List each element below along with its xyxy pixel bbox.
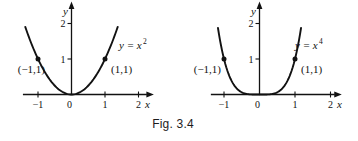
x-tick-label: 1 [293, 99, 298, 110]
x-tick-label: 1 [103, 99, 108, 110]
x-tick-label: −1 [33, 99, 44, 110]
equation-exponent: 4 [319, 37, 323, 46]
x-tick-label: 2 [136, 99, 141, 110]
y-axis-label: y [250, 5, 256, 17]
equation-label: y = x [118, 39, 142, 51]
y-axis-arrow-icon [257, 2, 263, 10]
y-tick-label: 2 [249, 18, 254, 29]
figure-caption: Fig. 3.4 [0, 117, 346, 131]
x-axis-label: x [144, 98, 150, 110]
x-axis-label: x [336, 98, 342, 110]
graph-y-equals-x-fourth: −1 0 1 2 1 2 x y (−1,1) (1,1) y = x 4 [179, 0, 358, 115]
figure-container: −1 0 1 2 1 2 x y (−1,1) (1,1) y = x 2 −1… [0, 0, 358, 141]
tick-marks [224, 24, 331, 98]
x-tick-label: 0 [255, 99, 260, 110]
point-dot [103, 57, 108, 62]
x-tick-label: −1 [219, 99, 230, 110]
x-axis-arrow-icon [334, 92, 342, 98]
point-dot [36, 57, 41, 62]
y-axis-arrow-icon [69, 2, 75, 10]
point-dot [293, 57, 298, 62]
point-label: (−1,1) [18, 63, 46, 76]
point-dot [222, 57, 227, 62]
y-tick-label: 1 [61, 54, 66, 65]
point-label: (1,1) [301, 63, 322, 76]
y-tick-label: 2 [61, 18, 66, 29]
x-tick-label: 2 [328, 99, 333, 110]
point-label: (1,1) [111, 63, 132, 76]
point-label: (−1,1) [194, 63, 222, 76]
x-tick-label: 0 [67, 99, 72, 110]
x-axis-arrow-icon [146, 92, 154, 98]
y-axis-label: y [62, 5, 68, 17]
graph-y-equals-x-squared: −1 0 1 2 1 2 x y (−1,1) (1,1) y = x 2 [0, 0, 179, 115]
equation-label: y = x [294, 39, 318, 51]
y-tick-label: 1 [249, 54, 254, 65]
equation-exponent: 2 [143, 37, 147, 46]
